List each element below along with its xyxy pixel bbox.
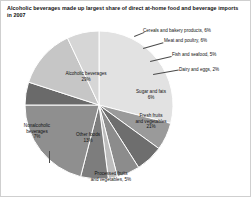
slice-label-alcoholic-beverages: Alcoholic beverages 29% xyxy=(57,71,115,82)
pie-svg xyxy=(23,29,175,181)
slice-label-dairy-and-eggs: Dairy and eggs, 2% xyxy=(179,67,219,73)
pie-chart-graphic xyxy=(23,29,175,181)
slice-label-processed-fruits-and-vegetables: Processed fruits and vegetables, 5% xyxy=(71,171,151,182)
slice-label-cereals-and-bakery-products: Cereals and bakery products, 6% xyxy=(143,28,211,34)
pie-chart-card: Alcoholic beverages made up largest shar… xyxy=(0,0,251,197)
slice-label-sugar-and-fats: Sugar and fats 6% xyxy=(129,89,173,100)
leader-line-nonalcoholic xyxy=(49,151,50,163)
slice-label-other-foods: Other foods 13% xyxy=(63,132,113,143)
slice-label-fresh-fruits-and-vegetables: Fresh fruits and vegetables 21% xyxy=(125,113,177,130)
slice-label-fish-and-seafood: Fish and seafood, 5% xyxy=(172,52,216,58)
slice-label-meat-and-poultry: Meat and poultry, 6% xyxy=(164,38,207,44)
slice-label-nonalcoholic-beverages: Nonalcoholic beverages 7% xyxy=(9,123,65,140)
pie-slice-group xyxy=(25,31,173,179)
page-title: Alcoholic beverages made up largest shar… xyxy=(7,5,241,19)
